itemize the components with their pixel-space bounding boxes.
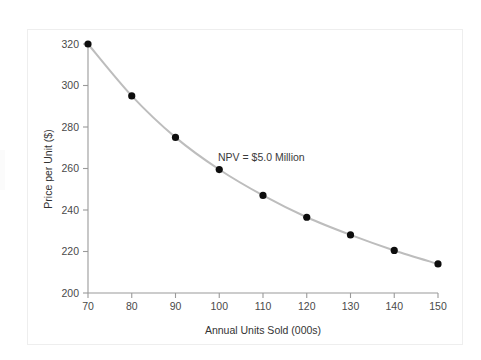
y-tick-label: 280 [61,121,79,133]
data-point-marker [434,260,441,267]
chart-figure: 200220240260280300320 708090100110120130… [0,0,481,360]
data-point-marker [391,247,398,254]
x-tick-label: 130 [342,300,360,312]
y-axis-title: Price per Unit ($) [42,129,54,208]
data-point-marker [84,40,91,47]
data-point-marker [303,214,310,221]
x-tick-label: 110 [255,300,272,312]
x-axis-ticks [88,293,438,298]
y-tick-label: 240 [61,204,79,216]
y-tick-label: 260 [61,162,79,174]
chart-plot-area: 200220240260280300320 708090100110120130… [0,0,481,360]
data-point-marker [347,231,354,238]
npv-annotation-label: NPV = $5.0 Million [218,151,305,163]
y-tick-label: 220 [61,245,79,257]
x-tick-label: 80 [126,300,138,312]
data-point-marker [259,192,266,199]
x-tick-label: 90 [170,300,182,312]
x-axis-tick-labels: 708090100110120130140150 [82,300,447,312]
x-tick-label: 100 [210,300,228,312]
x-axis-title: Annual Units Sold (000s) [205,324,321,336]
data-point-marker [216,166,223,173]
y-axis-tick-labels: 200220240260280300320 [61,38,79,299]
y-tick-label: 200 [61,287,79,299]
y-tick-label: 320 [61,38,79,50]
data-point-marker [172,134,179,141]
data-point-marker [128,92,135,99]
x-tick-label: 150 [429,300,447,312]
x-tick-label: 120 [298,300,316,312]
x-tick-label: 70 [82,300,94,312]
y-tick-label: 300 [61,79,79,91]
x-tick-label: 140 [385,300,403,312]
y-axis-ticks [83,44,88,293]
